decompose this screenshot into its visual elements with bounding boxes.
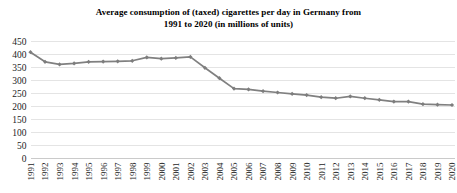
series-line-path bbox=[31, 52, 453, 105]
y-axis-tick-label: 300 bbox=[12, 76, 27, 86]
x-axis-tick-label: 2011 bbox=[317, 163, 327, 181]
y-axis-tick-label: 0 bbox=[22, 154, 27, 164]
x-axis-tick-label: 2020 bbox=[447, 162, 457, 181]
data-point-marker bbox=[334, 96, 338, 100]
x-axis-tick-label: 2014 bbox=[360, 162, 370, 181]
plot-area: 450400350300250200150100500 199119921993… bbox=[0, 0, 457, 193]
x-axis-tick-label: 1997 bbox=[113, 162, 123, 181]
x-axis-tick-label: 2002 bbox=[186, 163, 196, 181]
y-axis-tick-label: 450 bbox=[12, 37, 27, 47]
x-axis-tick-label: 2003 bbox=[200, 162, 210, 181]
x-axis-tick-labels: 1991199219931994199519961997199819992000… bbox=[26, 162, 457, 181]
data-point-marker bbox=[174, 56, 178, 60]
x-axis-tick-label: 1999 bbox=[142, 162, 152, 181]
y-axis-tick-label: 50 bbox=[17, 141, 27, 151]
x-axis-tick-label: 2004 bbox=[215, 162, 225, 181]
data-point-marker bbox=[246, 87, 250, 91]
y-axis-tick-label: 150 bbox=[12, 115, 27, 125]
data-point-marker bbox=[72, 61, 76, 65]
x-axis-tick-label: 2012 bbox=[331, 163, 341, 181]
y-axis-tick-labels: 450400350300250200150100500 bbox=[12, 37, 27, 164]
data-point-marker bbox=[101, 59, 105, 63]
y-axis-tick-label: 400 bbox=[12, 50, 27, 60]
x-axis-tick-label: 2019 bbox=[433, 162, 443, 181]
data-point-marker bbox=[319, 95, 323, 99]
data-point-marker bbox=[87, 60, 91, 64]
data-point-marker bbox=[377, 98, 381, 102]
data-point-marker bbox=[116, 59, 120, 63]
x-axis-tick-label: 2009 bbox=[288, 162, 298, 181]
data-point-marker bbox=[290, 92, 294, 96]
data-point-marker bbox=[130, 59, 134, 63]
x-axis-tick-label: 2005 bbox=[229, 162, 239, 181]
chart-container: Average consumption of (taxed) cigarette… bbox=[0, 0, 457, 193]
data-point-marker bbox=[57, 62, 61, 66]
x-axis-tick-label: 1995 bbox=[84, 162, 94, 181]
y-axis-tick-label: 250 bbox=[12, 89, 27, 99]
x-axis-tick-label: 2013 bbox=[346, 162, 356, 181]
data-point-marker bbox=[406, 100, 410, 104]
x-axis-tick-label: 2008 bbox=[273, 162, 283, 181]
data-point-marker bbox=[421, 102, 425, 106]
y-axis-tick-label: 100 bbox=[12, 128, 27, 138]
x-axis-tick-label: 2017 bbox=[404, 162, 414, 181]
data-point-marker bbox=[348, 94, 352, 98]
x-axis-tick-label: 2018 bbox=[418, 162, 428, 181]
data-point-marker bbox=[145, 55, 149, 59]
data-point-marker bbox=[159, 57, 163, 61]
gridlines bbox=[31, 42, 456, 159]
x-axis-tick-label: 1996 bbox=[99, 162, 109, 181]
x-axis-tick-label: 2000 bbox=[157, 162, 167, 181]
y-axis-tick-label: 350 bbox=[12, 63, 27, 73]
data-point-marker bbox=[275, 90, 279, 94]
data-point-marker bbox=[261, 89, 265, 93]
y-axis-tick-label: 200 bbox=[12, 102, 27, 112]
x-axis-tick-label: 2006 bbox=[244, 162, 254, 181]
chart-svg: 450400350300250200150100500 199119921993… bbox=[0, 0, 457, 193]
x-axis-tick-label: 2007 bbox=[258, 162, 268, 181]
x-axis-tick-label: 1998 bbox=[128, 162, 138, 181]
x-axis-tick-label: 2016 bbox=[389, 162, 399, 181]
x-axis-tick-label: 1994 bbox=[70, 162, 80, 181]
data-point-marker bbox=[363, 96, 367, 100]
data-point-marker bbox=[392, 100, 396, 104]
x-axis-tick-label: 1992 bbox=[40, 163, 50, 181]
data-series-line bbox=[31, 52, 453, 105]
x-axis-tick-label: 1993 bbox=[55, 162, 65, 181]
x-axis-tick-label: 2015 bbox=[375, 162, 385, 181]
x-axis-tick-label: 1991 bbox=[26, 163, 36, 181]
data-point-markers bbox=[28, 50, 454, 107]
x-axis-tick-label: 2010 bbox=[302, 162, 312, 181]
x-axis-tick-label: 2001 bbox=[171, 163, 181, 181]
